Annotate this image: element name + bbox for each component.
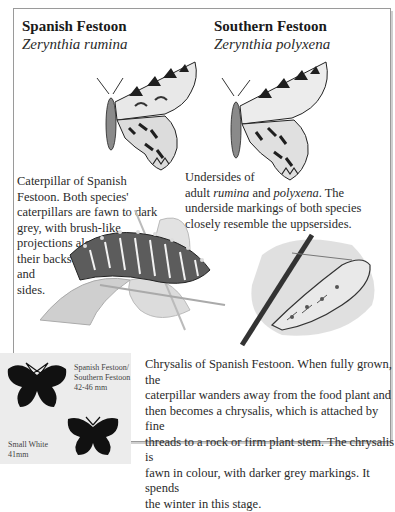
- species-name-polyxena: polyxena: [274, 186, 319, 200]
- caption-line: then becomes a chrysalis, which is attac…: [145, 404, 395, 435]
- spanish-festoon-underside-illustration: [95, 58, 200, 178]
- caption-line: Festoon. Both species': [17, 190, 157, 206]
- common-name: Spanish Festoon: [22, 17, 127, 35]
- chrysalis-illustration: [232, 225, 392, 350]
- common-name: Southern Festoon: [214, 17, 330, 35]
- latin-name: Zerynthia rumina: [22, 35, 127, 53]
- caterpillar-illustration: [40, 210, 240, 335]
- southern-festoon-underside-illustration: [218, 58, 333, 183]
- small-white-size-label: Small White 41mm: [8, 440, 48, 460]
- caption-line: fawn in colour, with darker grey marking…: [145, 466, 395, 497]
- small-white-silhouette-icon: [66, 415, 120, 457]
- species-title-spanish-festoon: Spanish Festoon Zerynthia rumina: [22, 17, 127, 53]
- species-title-southern-festoon: Southern Festoon Zerynthia polyxena: [214, 17, 330, 53]
- caption-line: Undersides of: [185, 170, 361, 186]
- species-name-rumina: rumina: [213, 186, 249, 200]
- caption-line: adult rumina and polyxena. The: [185, 186, 361, 202]
- festoon-size-label: Spanish Festoon/ Southern Festoon 42-46 …: [74, 363, 130, 393]
- festoon-silhouette-icon: [6, 361, 68, 409]
- caption-line: the winter in this stage.: [145, 497, 395, 512]
- caption-line: Caterpillar of Spanish: [17, 174, 157, 190]
- caption-line: caterpillar wanders away from the food p…: [145, 388, 395, 404]
- size-comparison-inset: Spanish Festoon/ Southern Festoon 42-46 …: [0, 353, 131, 464]
- caption-line: Chrysalis of Spanish Festoon. When fully…: [145, 357, 395, 388]
- caption-line: threads to a rock or firm plant stem. Th…: [145, 435, 395, 466]
- latin-name: Zerynthia polyxena: [214, 35, 330, 53]
- chrysalis-caption: Chrysalis of Spanish Festoon. When fully…: [145, 357, 395, 512]
